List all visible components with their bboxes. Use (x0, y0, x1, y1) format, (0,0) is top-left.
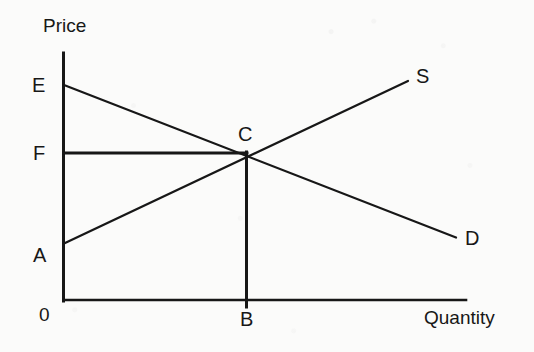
y-axis-label: Price (43, 16, 86, 35)
origin-label: 0 (39, 305, 50, 324)
point-label-e: E (32, 75, 45, 95)
curve-label-demand: D (465, 228, 479, 248)
x-axis-label: Quantity (424, 308, 495, 327)
supply-demand-plot (0, 0, 534, 352)
curve-label-supply: S (416, 66, 429, 86)
point-label-f: F (33, 143, 45, 163)
point-label-c: C (238, 124, 252, 144)
point-label-b: B (240, 309, 253, 329)
diagram-canvas: Price Quantity 0 E F A C B S D (0, 0, 534, 352)
point-label-a: A (33, 245, 46, 265)
